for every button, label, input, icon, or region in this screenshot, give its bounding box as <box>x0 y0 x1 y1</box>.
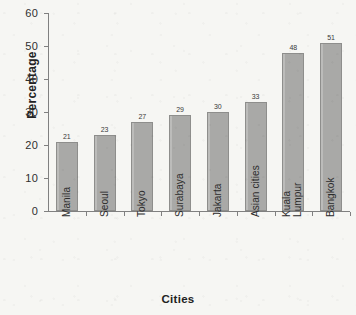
x-tick-mark <box>124 212 125 216</box>
bar-value-label: 33 <box>244 93 268 100</box>
bar-value-label: 29 <box>168 106 192 113</box>
category-label-line: Bangkok <box>326 177 337 217</box>
y-tick-mark <box>44 145 48 146</box>
category-label: Manila <box>62 187 73 217</box>
bar-value-label: 27 <box>130 113 154 120</box>
y-tick-label: 60 <box>12 8 38 19</box>
category-label: KualaLumpur <box>282 182 303 217</box>
y-axis-line <box>48 13 49 212</box>
bar-value-label: 48 <box>281 44 305 51</box>
x-tick-mark <box>86 212 87 216</box>
bar-value-label: 23 <box>93 126 117 133</box>
y-tick-mark <box>44 178 48 179</box>
x-tick-mark <box>161 212 162 216</box>
category-label-line: Manila <box>62 187 73 217</box>
y-tick-label: 50 <box>12 41 38 52</box>
x-tick-mark <box>312 212 313 216</box>
y-tick-mark <box>44 46 48 47</box>
category-label-line: Surabaya <box>175 173 186 217</box>
category-label: Tokyo <box>137 190 148 217</box>
y-tick-label: 20 <box>12 140 38 151</box>
bar-value-label: 51 <box>319 34 343 41</box>
category-label-line: Asian cities <box>251 165 262 217</box>
y-tick-mark <box>44 79 48 80</box>
x-tick-mark <box>237 212 238 216</box>
category-label-line: Seoul <box>100 191 111 217</box>
y-tick-label: 0 <box>12 206 38 217</box>
category-label-line: Jakarta <box>213 184 224 218</box>
y-tick-mark <box>44 112 48 113</box>
bar-value-label: 30 <box>206 103 230 110</box>
bar-chart: Percentage 0102030405060 212327293033485… <box>0 0 356 315</box>
y-tick-label: 10 <box>12 173 38 184</box>
category-label-line: Lumpur <box>293 182 304 217</box>
y-tick-mark <box>44 211 48 212</box>
x-tick-mark <box>275 212 276 216</box>
category-label: Asian cities <box>251 165 262 217</box>
bar-value-label: 21 <box>55 133 79 140</box>
x-tick-mark <box>350 212 351 216</box>
y-tick-mark <box>44 13 48 14</box>
y-tick-label: 30 <box>12 107 38 118</box>
x-axis-title: Cities <box>0 293 356 305</box>
category-label: Jakarta <box>213 184 224 218</box>
x-tick-mark <box>199 212 200 216</box>
category-label: Surabaya <box>175 173 186 217</box>
y-tick-label: 40 <box>12 74 38 85</box>
category-label: Bangkok <box>326 177 337 217</box>
category-label: Seoul <box>100 191 111 217</box>
category-label-line: Tokyo <box>137 190 148 217</box>
